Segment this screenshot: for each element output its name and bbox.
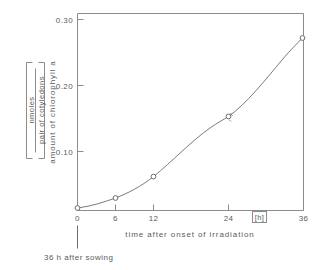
x-axis-unit-label: [h] xyxy=(253,212,267,223)
x-tick-label-12: 12 xyxy=(149,214,159,223)
data-point-0 xyxy=(75,206,80,211)
y-axis-title: amount of chlorophyll a xyxy=(48,60,57,163)
data-point-2 xyxy=(151,174,156,179)
x-tick-label-36: 36 xyxy=(299,214,309,223)
data-points xyxy=(75,36,305,211)
sowing-annotation: 36 h after sowing xyxy=(44,253,113,262)
x-tick-label-0: 0 xyxy=(75,214,80,223)
y-axis-ticks xyxy=(78,20,84,152)
y-tick-label-010: 0.10 xyxy=(56,148,73,157)
y-tick-label-030: 0.30 xyxy=(56,16,73,25)
data-curve xyxy=(78,38,303,208)
x-axis-unit-text: [h] xyxy=(255,213,265,222)
y-tick-label-020: 0.20 xyxy=(56,82,73,91)
x-tick-label-6: 6 xyxy=(113,214,118,223)
plot-frame xyxy=(78,14,304,211)
x-axis-ticks xyxy=(78,205,304,211)
chart-svg: 0.30 0.20 0.10 0 6 12 24 36 [h] time aft… xyxy=(0,0,322,270)
x-tick-label-24: 24 xyxy=(224,214,234,223)
y-axis-unit-numerator: nmoles xyxy=(27,96,36,123)
y-axis-unit-denominator: pair of cotyledons xyxy=(37,76,46,144)
x-axis-title: time after onset of irradiation xyxy=(125,230,254,239)
chart-figure: 0.30 0.20 0.10 0 6 12 24 36 [h] time aft… xyxy=(0,0,322,270)
data-point-3 xyxy=(226,114,231,119)
data-point-1 xyxy=(113,196,118,201)
data-point-4 xyxy=(300,36,305,41)
